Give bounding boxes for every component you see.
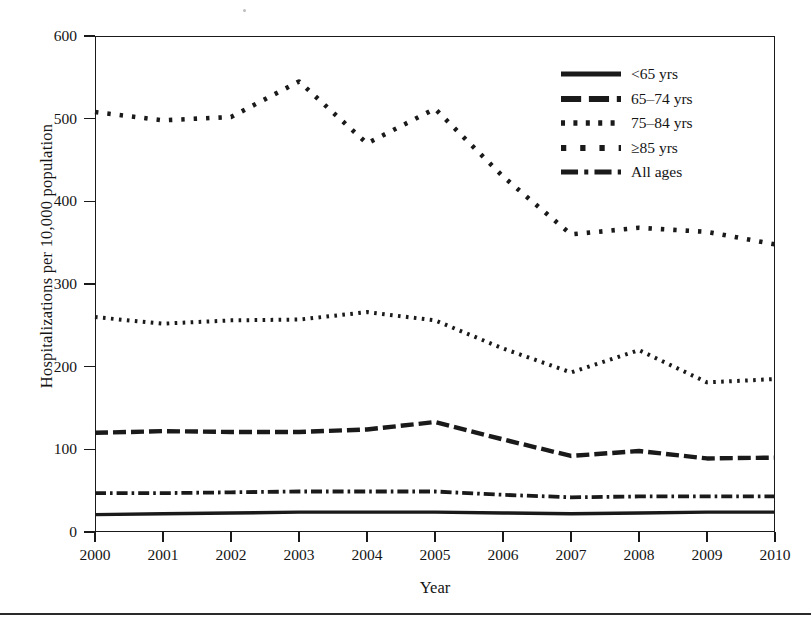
footer-rule [0,613,811,615]
y-tick-mark [84,449,95,451]
legend-swatch-icon [560,67,622,81]
legend-item-3[interactable]: ≥85 yrs [560,136,765,161]
y-tick-label: 600 [54,27,77,45]
legend-label: 75–84 yrs [631,114,693,132]
x-tick-label: 2007 [541,546,601,564]
y-tick-label: 200 [54,358,77,376]
y-tick-label: 400 [54,192,77,210]
legend-item-1[interactable]: 65–74 yrs [560,87,765,112]
x-tick-label: 2003 [269,546,329,564]
x-tick-label: 2010 [745,546,805,564]
y-tick-mark [84,366,95,368]
legend-label: <65 yrs [631,65,678,83]
y-tick-mark [84,35,95,37]
legend-item-0[interactable]: <65 yrs [560,62,765,87]
y-tick-mark [84,283,95,285]
legend-swatch-icon [560,165,622,179]
x-tick-label: 2002 [201,546,261,564]
x-tick-label: 2000 [65,546,125,564]
y-axis-title: Hospitalizations per 10,000 population [37,31,57,481]
legend-swatch-icon [560,141,622,155]
x-tick-label: 2004 [337,546,397,564]
legend-swatch-icon [560,116,622,130]
legend-swatch-icon [560,92,622,106]
y-tick-label: 300 [54,275,77,293]
legend-label: All ages [631,163,682,181]
x-tick-mark [230,532,232,542]
x-tick-label: 2009 [677,546,737,564]
x-tick-mark [502,532,504,542]
chart-figure: Hospitalizations per 10,000 population 6… [0,0,811,627]
scan-artifact-speck [243,9,246,12]
x-tick-mark [94,532,96,542]
x-tick-mark [434,532,436,542]
x-tick-label: 2006 [473,546,533,564]
chart-legend: <65 yrs65–74 yrs75–84 yrs≥85 yrsAll ages [560,62,765,185]
x-tick-mark [774,532,776,542]
x-tick-mark [638,532,640,542]
legend-item-2[interactable]: 75–84 yrs [560,111,765,136]
x-tick-mark [298,532,300,542]
y-tick-label: 100 [54,440,77,458]
legend-label: 65–74 yrs [631,90,693,108]
x-tick-mark [366,532,368,542]
x-axis-title: Year [95,578,775,598]
x-tick-mark [162,532,164,542]
legend-item-4[interactable]: All ages [560,160,765,185]
y-tick-mark [84,118,95,120]
x-tick-mark [706,532,708,542]
y-tick-label: 0 [69,523,77,541]
y-tick-label: 500 [54,110,77,128]
x-tick-label: 2008 [609,546,669,564]
y-tick-mark [84,201,95,203]
x-tick-mark [570,532,572,542]
x-tick-label: 2005 [405,546,465,564]
x-tick-label: 2001 [133,546,193,564]
legend-label: ≥85 yrs [631,139,678,157]
